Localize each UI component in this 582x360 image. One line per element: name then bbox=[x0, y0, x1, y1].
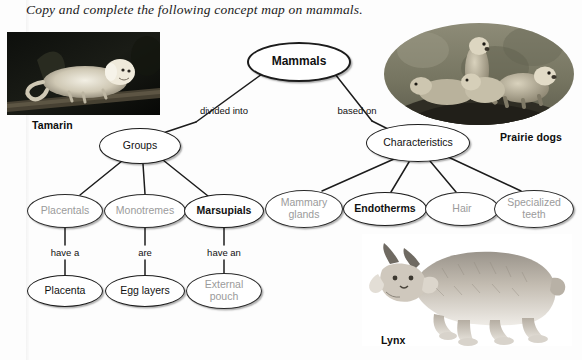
worksheet-page: Copy and complete the following concept … bbox=[0, 0, 582, 360]
edge-label-have-a: have a bbox=[51, 247, 80, 258]
node-groups[interactable]: Groups bbox=[99, 128, 181, 164]
node-external-pouch[interactable]: Externalpouch bbox=[186, 273, 262, 309]
node-mammals[interactable]: Mammals bbox=[247, 42, 351, 82]
node-egg-layers[interactable]: Egg layers bbox=[105, 275, 185, 307]
edge-label-based-on: based on bbox=[337, 105, 376, 116]
node-placentals[interactable]: Placentals bbox=[27, 194, 103, 228]
node-characteristics[interactable]: Characteristics bbox=[366, 124, 470, 162]
edge-label-have-an: have an bbox=[207, 247, 241, 258]
edge-label-are: are bbox=[138, 247, 152, 258]
node-hair[interactable]: Hair bbox=[425, 192, 499, 226]
node-endotherms[interactable]: Endotherms bbox=[343, 192, 427, 226]
node-marsupials[interactable]: Marsupials bbox=[184, 194, 264, 228]
node-mammary-glands[interactable]: Mammaryglands bbox=[265, 190, 343, 228]
node-monotremes[interactable]: Monotremes bbox=[104, 194, 186, 228]
node-placenta[interactable]: Placenta bbox=[27, 275, 103, 307]
edge-label-divided-into: divided into bbox=[200, 105, 248, 116]
node-specialized-teeth[interactable]: Specializedteeth bbox=[494, 190, 574, 228]
